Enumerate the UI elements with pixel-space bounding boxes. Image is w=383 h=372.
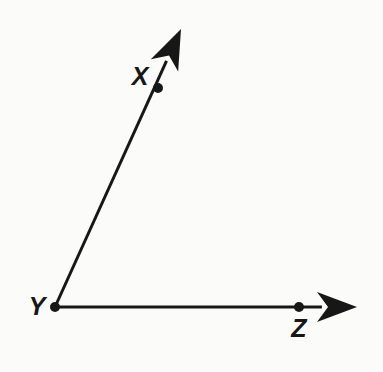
point-x	[153, 83, 163, 93]
angle-diagram-figure: X Y Z	[0, 0, 383, 372]
point-label-x: X	[132, 64, 149, 89]
vertex-point-y	[50, 302, 60, 312]
diagram-canvas	[0, 0, 383, 372]
point-z	[294, 302, 304, 312]
point-label-y: Y	[29, 294, 46, 319]
point-label-z: Z	[291, 316, 306, 341]
